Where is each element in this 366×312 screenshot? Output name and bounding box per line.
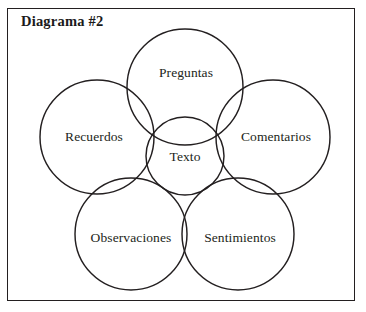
- venn-label-preguntas: Preguntas: [159, 65, 213, 81]
- venn-label-sentimientos: Sentimientos: [204, 230, 276, 246]
- venn-circle-preguntas: [127, 29, 243, 145]
- figure-container: Diagrama #2 Preguntas Recuerdos Comentar…: [0, 0, 366, 312]
- venn-label-observaciones: Observaciones: [91, 230, 172, 246]
- venn-label-recuerdos: Recuerdos: [65, 129, 123, 145]
- venn-label-comentarios: Comentarios: [241, 129, 311, 145]
- venn-label-texto: Texto: [169, 149, 200, 165]
